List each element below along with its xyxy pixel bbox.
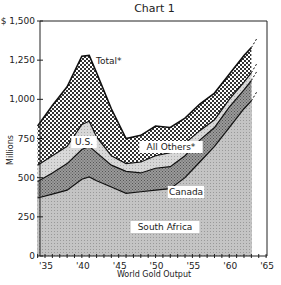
y-tick-label: 0 <box>29 251 35 261</box>
projection-dash <box>251 38 257 48</box>
label-total: Total* <box>95 56 122 66</box>
x-tick-label: '40 <box>76 261 90 271</box>
x-tick-label: '60 <box>223 261 237 271</box>
label-all-others: All Others* <box>147 142 196 152</box>
label-canada: Canada <box>169 187 203 197</box>
label-us: U.S. <box>75 137 93 147</box>
projection-dash <box>251 91 257 101</box>
x-tick-label: '65 <box>260 261 274 271</box>
y-tick-label: 1,250 <box>9 55 35 65</box>
y-tick-label: 250 <box>18 212 35 222</box>
y-tick-label: $ 1,500 <box>1 16 36 26</box>
y-tick-label: 1,000 <box>9 94 35 104</box>
label-south-africa: South Africa <box>138 222 193 232</box>
y-tick-label: 500 <box>18 173 35 183</box>
stacked-area-chart: 02505007501,0001,250$ 1,500'35'40'45'50'… <box>0 0 281 285</box>
y-axis-label: Millions <box>6 135 15 165</box>
x-axis-label: World Gold Output <box>117 270 191 279</box>
x-tick-label: '35 <box>39 261 53 271</box>
y-tick-label: 750 <box>18 134 35 144</box>
projection-dash <box>251 63 257 73</box>
